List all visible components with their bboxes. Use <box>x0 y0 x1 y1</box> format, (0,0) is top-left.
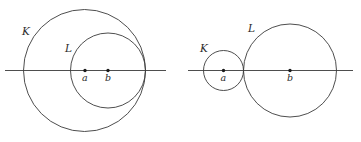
right-label-b: b <box>287 72 293 83</box>
left-label-b: b <box>105 72 111 83</box>
right-panel: K L a b <box>188 22 353 117</box>
right-label-K: K <box>199 42 209 54</box>
left-panel: K L a b <box>5 10 166 132</box>
left-label-a: a <box>82 72 88 83</box>
right-label-L: L <box>247 22 255 34</box>
geometry-figure: K L a b K L a b <box>0 0 361 142</box>
figure-canvas: K L a b K L a b <box>0 0 361 142</box>
left-label-K: K <box>21 25 31 37</box>
right-label-a: a <box>221 72 227 83</box>
left-label-L: L <box>64 42 72 54</box>
